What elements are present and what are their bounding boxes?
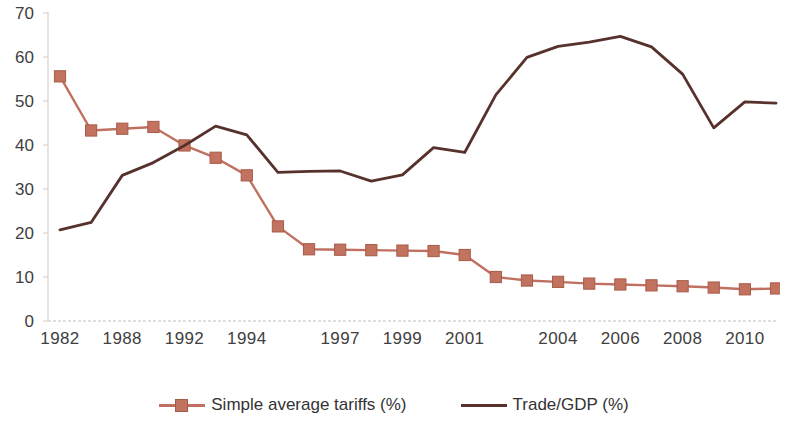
- x-tick-label: 2008: [663, 330, 702, 347]
- data-point-marker: [241, 170, 252, 181]
- data-point-marker: [459, 249, 470, 260]
- x-tick-label: 1997: [320, 330, 359, 347]
- y-tick-label: 10: [0, 269, 34, 286]
- legend-line-icon: [461, 397, 507, 413]
- legend-item[interactable]: Trade/GDP (%): [461, 395, 629, 415]
- x-tick-label: 1992: [165, 330, 204, 347]
- legend-label: Trade/GDP (%): [513, 395, 629, 415]
- x-tick-label: 2004: [538, 330, 577, 347]
- y-tick-label: 30: [0, 181, 34, 198]
- data-point-marker: [54, 71, 65, 82]
- x-tick-label: 2001: [445, 330, 484, 347]
- legend-label: Simple average tariffs (%): [211, 395, 406, 415]
- series-trade-gdp: [60, 36, 776, 230]
- x-tick-label: 1988: [103, 330, 142, 347]
- data-point-marker: [303, 244, 314, 255]
- legend-item[interactable]: Simple average tariffs (%): [159, 395, 406, 415]
- y-tick-label: 60: [0, 49, 34, 66]
- data-point-marker: [490, 271, 501, 282]
- y-tick-label: 20: [0, 225, 34, 242]
- data-point-marker: [615, 279, 626, 290]
- y-tick-label: 70: [0, 5, 34, 22]
- y-tick-label: 50: [0, 93, 34, 110]
- data-point-marker: [677, 281, 688, 292]
- data-point-marker: [366, 245, 377, 256]
- series-tariffs: [54, 71, 780, 295]
- chart-legend: Simple average tariffs (%)Trade/GDP (%): [0, 388, 788, 422]
- chart-container: 706050403020100 198219881992199419971999…: [0, 0, 788, 432]
- data-point-marker: [148, 121, 159, 132]
- data-point-marker: [552, 276, 563, 287]
- data-point-marker: [770, 283, 780, 294]
- x-tick-label: 1994: [227, 330, 266, 347]
- data-point-marker: [708, 282, 719, 293]
- series-line: [60, 76, 776, 289]
- plot-area: [38, 8, 780, 324]
- data-point-marker: [272, 221, 283, 232]
- x-tick-label: 2010: [725, 330, 764, 347]
- data-point-marker: [521, 275, 532, 286]
- data-point-marker: [210, 152, 221, 163]
- data-point-marker: [397, 245, 408, 256]
- data-point-marker: [117, 123, 128, 134]
- y-tick-label: 0: [0, 313, 34, 330]
- data-point-marker: [86, 125, 97, 136]
- y-axis: 706050403020100: [0, 0, 34, 332]
- y-tick-label: 40: [0, 137, 34, 154]
- legend-square-marker-icon: [159, 397, 205, 413]
- data-point-marker: [739, 284, 750, 295]
- series-layer: [54, 36, 780, 295]
- data-point-marker: [646, 280, 657, 291]
- x-tick-label: 2006: [601, 330, 640, 347]
- data-point-marker: [335, 244, 346, 255]
- data-point-marker: [428, 245, 439, 256]
- plot-svg: [38, 8, 780, 324]
- x-tick-label: 1999: [383, 330, 422, 347]
- x-tick-label: 1982: [40, 330, 79, 347]
- series-line: [60, 36, 776, 230]
- x-axis: 1982198819921994199719992001200420062008…: [38, 330, 780, 360]
- data-point-marker: [584, 278, 595, 289]
